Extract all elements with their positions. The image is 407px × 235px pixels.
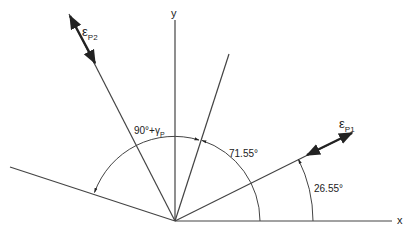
inner-line-71 <box>175 54 229 221</box>
eps-p1-arrow <box>307 133 352 155</box>
eps-p2-label: εP2 <box>82 24 98 42</box>
x-axis-label: x <box>397 214 403 226</box>
y-axis-label: y <box>171 7 177 19</box>
angle-90-gamma-label: 90°+γP <box>134 125 165 138</box>
strain-diagram: y x εP2 εP1 90°+γP 71.55° 26.55° <box>0 0 407 235</box>
arc-26-55 <box>298 159 313 221</box>
eps-p1-label: εP1 <box>339 116 355 134</box>
left-line <box>10 167 175 221</box>
arc-90-gamma <box>95 136 200 192</box>
angle-71-label: 71.55° <box>229 148 258 159</box>
angle-26-label: 26.55° <box>314 183 343 194</box>
